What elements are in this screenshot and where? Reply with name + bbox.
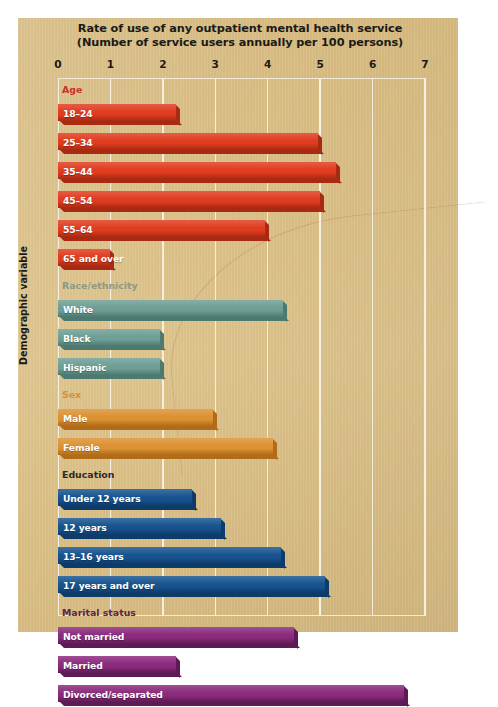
bar-highlight [58, 191, 320, 199]
y-axis-title: Demographic variable [18, 221, 29, 391]
bar-row[interactable]: 17 years and over [58, 576, 325, 593]
bar-bottom-face [60, 121, 182, 125]
gridline [267, 78, 268, 616]
bar-bottom-face [60, 673, 182, 677]
bar-bottom-face [60, 346, 166, 350]
bar-bottom-face [60, 644, 300, 648]
bar-bottom-face [60, 179, 342, 183]
bar-label: Black [63, 332, 90, 343]
bar[interactable]: Black [58, 329, 160, 346]
bar-highlight [58, 162, 336, 170]
bar[interactable]: 18–24 [58, 104, 176, 121]
group-header-education: Education [62, 469, 114, 480]
x-axis-tick-label: 5 [316, 58, 323, 70]
bar-row[interactable]: Hispanic [58, 358, 160, 375]
bar-row[interactable]: 45–54 [58, 191, 320, 208]
bar-row[interactable]: 13–16 years [58, 547, 281, 564]
bar-row[interactable]: 35–44 [58, 162, 336, 179]
bar-label: 13–16 years [63, 550, 124, 561]
bar[interactable]: Under 12 years [58, 489, 192, 506]
bar-row[interactable]: 65 and over [58, 249, 110, 266]
bar-label: 17 years and over [63, 579, 154, 590]
bar-label: Divorced/separated [63, 688, 163, 699]
bar-bottom-face [60, 506, 198, 510]
bar-bottom-face [60, 208, 326, 212]
bar-bottom-face [60, 150, 324, 154]
bar-highlight [58, 133, 318, 141]
gridline [424, 78, 425, 616]
bar-bottom-face [60, 375, 166, 379]
bar-row[interactable]: 12 years [58, 518, 221, 535]
bar[interactable]: White [58, 300, 283, 317]
bar-bottom-face [60, 535, 227, 539]
group-header-age: Age [62, 84, 82, 95]
bar-bottom-face [60, 266, 116, 270]
bar-label: 35–44 [63, 165, 93, 176]
bar[interactable]: 25–34 [58, 133, 318, 150]
group-header-race-ethnicity: Race/ethnicity [62, 280, 138, 291]
bar-row[interactable]: Black [58, 329, 160, 346]
bar-row[interactable]: Male [58, 409, 213, 426]
bar-row[interactable]: White [58, 300, 283, 317]
bar[interactable]: Not married [58, 627, 294, 644]
bar-label: 12 years [63, 521, 107, 532]
bar[interactable]: 12 years [58, 518, 221, 535]
bar-bottom-face [60, 426, 219, 430]
bar-bottom-face [60, 317, 289, 321]
bar-bottom-face [60, 702, 410, 706]
bar[interactable]: 13–16 years [58, 547, 281, 564]
bar-row[interactable]: Married [58, 656, 176, 673]
x-axis-tick-label: 2 [159, 58, 166, 70]
x-axis-tick-label: 1 [107, 58, 114, 70]
bar-row[interactable]: Female [58, 438, 273, 455]
gridline [372, 78, 373, 616]
bar-label: Under 12 years [63, 492, 141, 503]
bar[interactable]: Male [58, 409, 213, 426]
bar-label: Female [63, 441, 100, 452]
bar[interactable]: 55–64 [58, 220, 265, 237]
bar-row[interactable]: 18–24 [58, 104, 176, 121]
bar-bottom-face [60, 564, 287, 568]
bar[interactable]: Married [58, 656, 176, 673]
bar-label: 25–34 [63, 136, 93, 147]
chart-title-line-2: (Number of service users annually per 10… [40, 36, 440, 50]
x-axis-tick-label: 4 [264, 58, 271, 70]
bar[interactable]: 35–44 [58, 162, 336, 179]
bar-row[interactable]: Divorced/separated [58, 685, 404, 702]
bar-row[interactable]: 25–34 [58, 133, 318, 150]
x-axis-tick-label: 3 [212, 58, 219, 70]
bar[interactable]: Divorced/separated [58, 685, 404, 702]
chart-title-line-1: Rate of use of any outpatient mental hea… [78, 22, 402, 35]
bar-label: 65 and over [63, 252, 123, 263]
chart-title: Rate of use of any outpatient mental hea… [40, 22, 440, 50]
bar-label: 18–24 [63, 107, 93, 118]
x-axis-tick-label: 0 [54, 58, 61, 70]
bar-label: 45–54 [63, 194, 93, 205]
x-axis-tick-label: 7 [421, 58, 428, 70]
bar-row[interactable]: Not married [58, 627, 294, 644]
gridline [319, 78, 320, 616]
bar-label: White [63, 303, 93, 314]
bar-label: Hispanic [63, 361, 106, 372]
bar-label: Married [63, 659, 103, 670]
bar-label: Not married [63, 630, 124, 641]
plot-area: 01234567 Age18–2425–3435–4445–5455–6465 … [58, 78, 425, 616]
group-header-sex: Sex [62, 389, 81, 400]
bar-row[interactable]: Under 12 years [58, 489, 192, 506]
bar[interactable]: 45–54 [58, 191, 320, 208]
bar[interactable]: 65 and over [58, 249, 110, 266]
bar-label: 55–64 [63, 223, 93, 234]
bar-row[interactable]: 55–64 [58, 220, 265, 237]
bar[interactable]: 17 years and over [58, 576, 325, 593]
group-header-marital-status: Marital status [62, 607, 136, 618]
bar-label: Male [63, 412, 87, 423]
x-axis-tick-label: 6 [369, 58, 376, 70]
bar[interactable]: Hispanic [58, 358, 160, 375]
bar-bottom-face [60, 593, 331, 597]
bar[interactable]: Female [58, 438, 273, 455]
bar-bottom-face [60, 455, 279, 459]
bar-bottom-face [60, 237, 271, 241]
